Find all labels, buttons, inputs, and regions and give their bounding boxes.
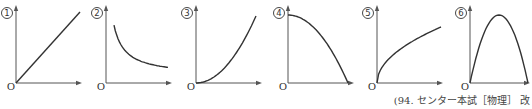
choice-number: 6 xyxy=(458,8,463,18)
graph-2: 2O xyxy=(92,5,173,92)
graph-3: 3O xyxy=(182,5,263,92)
curve-quadratic-increasing xyxy=(196,16,256,83)
source-citation: (94. センター本試［物理］ 改 xyxy=(394,92,530,107)
y-axis-arrow-icon xyxy=(375,5,379,11)
curve-inverse-decreasing xyxy=(114,25,168,67)
origin-label: O xyxy=(461,80,469,92)
curve-downward-parabola-arch xyxy=(470,15,528,83)
graph-1: 1O xyxy=(2,5,83,92)
y-axis-arrow-icon xyxy=(104,5,108,11)
x-axis-arrow-icon xyxy=(256,81,262,85)
x-axis-arrow-icon xyxy=(348,81,354,85)
choice-number: 4 xyxy=(276,8,281,18)
choice-number: 1 xyxy=(4,8,9,18)
y-axis-arrow-icon xyxy=(194,5,198,11)
y-axis-arrow-icon xyxy=(286,5,290,11)
graph-4: 4O xyxy=(274,5,355,92)
origin-label: O xyxy=(279,80,287,92)
x-axis-arrow-icon xyxy=(437,81,443,85)
origin-label: O xyxy=(7,80,15,92)
x-axis-arrow-icon xyxy=(76,81,82,85)
choice-number: 5 xyxy=(365,8,370,18)
origin-label: O xyxy=(97,80,105,92)
curve-linear-increasing xyxy=(16,12,80,83)
graph-6: 6O xyxy=(456,5,531,92)
graph-choices: 1O2O3O4O5O6O xyxy=(0,0,532,92)
origin-label: O xyxy=(368,80,376,92)
x-axis-arrow-icon xyxy=(166,81,172,85)
curve-downward-parabola-from-max xyxy=(288,15,348,83)
curve-square-root-increasing xyxy=(377,27,441,83)
choice-number: 2 xyxy=(94,8,99,18)
y-axis-arrow-icon xyxy=(14,5,18,11)
graph-5: 5O xyxy=(363,5,444,92)
choice-number: 3 xyxy=(184,8,189,18)
origin-label: O xyxy=(187,80,195,92)
y-axis-arrow-icon xyxy=(468,5,472,11)
